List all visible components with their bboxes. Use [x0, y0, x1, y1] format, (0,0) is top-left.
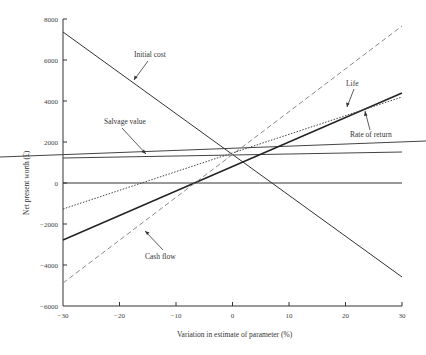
y-tick-label: 2000: [44, 139, 59, 147]
salvage-value-line-extended: [0, 141, 426, 157]
salvage-value-label: Salvage value: [104, 117, 147, 126]
arrow-head-icon: [145, 231, 150, 235]
initial-cost-label: Initial cost: [134, 50, 167, 59]
y-tick-label: 4000: [44, 98, 59, 106]
y-tick-label: 0: [55, 180, 59, 188]
rate-of-return-label: Rate of return: [350, 130, 392, 139]
x-tick-label: −30: [58, 312, 69, 320]
life-label: Life: [346, 79, 359, 88]
arrow-head-icon: [346, 103, 350, 108]
cash-flow-label: Cash flow: [145, 252, 176, 261]
y-tick-label: 6000: [44, 57, 59, 65]
cash-flow-line: [63, 26, 402, 283]
x-tick-label: −20: [114, 312, 125, 320]
x-tick-label: 20: [342, 312, 350, 320]
y-tick-label: −4000: [40, 262, 58, 270]
x-tick-label: −10: [171, 312, 182, 320]
x-tick-label: 0: [231, 312, 235, 320]
y-tick-label: −6000: [40, 303, 58, 311]
x-tick-label: 10: [286, 312, 294, 320]
salvage-value-arrow: [122, 128, 146, 154]
life-line: [63, 93, 402, 240]
y-axis-label: Net present worth (£): [22, 150, 31, 215]
y-ticks: [63, 19, 67, 265]
y-tick-label: −2000: [40, 221, 58, 229]
x-ticks: [120, 302, 403, 306]
y-tick-label: 8000: [44, 16, 59, 24]
sensitivity-chart: 8000 6000 4000 2000 0 −2000 −4000 −6000 …: [0, 0, 426, 355]
x-tick-label: 30: [399, 312, 407, 320]
x-axis-label: Variation in estimate of parameter (%): [177, 330, 293, 339]
arrow-head-icon: [364, 111, 368, 116]
